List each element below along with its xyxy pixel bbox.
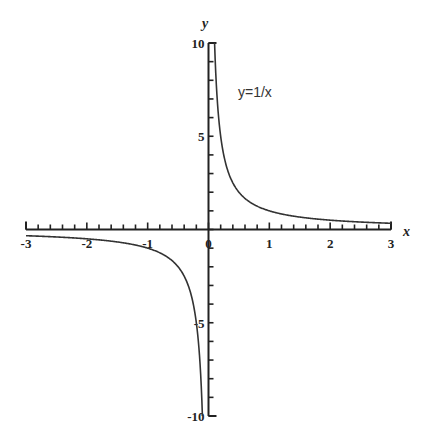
x-tick-label: 1 [266,236,273,251]
y-tick-label: 10 [192,36,205,51]
curve-positive-branch [215,43,391,223]
function-annotation: y=1/x [238,84,272,100]
plot-area: -3-2-10123105-5-10 y x y=1/x [0,0,425,442]
curve-negative-branch [26,236,202,416]
axes: -3-2-10123105-5-10 [21,36,395,424]
x-tick-label: -3 [21,236,32,251]
x-tick-label: 0 [205,236,212,251]
labels: y x y=1/x [200,16,410,239]
x-tick-label: 3 [388,236,395,251]
y-axis-label: y [200,16,209,31]
y-tick-label: 5 [198,129,205,144]
x-tick-label: 2 [327,236,334,251]
x-axis-label: x [402,224,410,239]
